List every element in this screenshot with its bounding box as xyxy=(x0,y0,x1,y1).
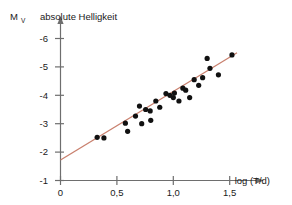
y-axis-symbol: M xyxy=(10,11,18,22)
data-point xyxy=(192,77,197,82)
chart-header-label: absolute Helligkeit xyxy=(40,11,117,22)
data-point xyxy=(187,95,192,100)
data-point xyxy=(143,107,148,112)
data-point xyxy=(172,90,177,95)
x-tick-label-0: 0 xyxy=(58,187,63,198)
chart-svg: -6 -5 -4 -3 -2 -1 0 0,5 1,0 1,5 log (T/d… xyxy=(0,0,292,205)
y-tick-label--5: -5 xyxy=(40,61,48,72)
data-point xyxy=(196,83,201,88)
data-point xyxy=(216,72,221,77)
y-tick-label--4: -4 xyxy=(40,90,48,101)
data-point xyxy=(137,103,142,108)
y-tick-label--2: -2 xyxy=(40,146,48,157)
data-point xyxy=(148,118,153,123)
data-point xyxy=(229,52,234,57)
x-tick-label-0-5: 0,5 xyxy=(110,187,123,198)
data-point xyxy=(139,121,144,126)
data-point xyxy=(183,88,188,93)
x-tick-label-1-5: 1,5 xyxy=(223,187,236,198)
data-point xyxy=(200,75,205,80)
data-point xyxy=(153,98,158,103)
data-point xyxy=(171,95,176,100)
x-tick-label-1-0: 1,0 xyxy=(167,187,180,198)
y-tick-label--1: -1 xyxy=(40,175,48,186)
data-point xyxy=(101,135,106,140)
data-point xyxy=(123,121,128,126)
data-point xyxy=(133,113,138,118)
y-tick-label--6: -6 xyxy=(40,33,48,44)
y-tick-label--3: -3 xyxy=(40,118,48,129)
data-point xyxy=(176,98,181,103)
x-axis-title: log (T/d) xyxy=(235,175,270,186)
cepheid-period-luminosity-chart: -6 -5 -4 -3 -2 -1 0 0,5 1,0 1,5 log (T/d… xyxy=(0,0,292,205)
data-point xyxy=(125,129,130,134)
data-point xyxy=(95,135,100,140)
data-point xyxy=(207,66,212,71)
data-point xyxy=(148,108,153,113)
data-point xyxy=(157,105,162,110)
y-axis-symbol-subscript: V xyxy=(21,17,26,24)
data-point xyxy=(205,56,210,61)
